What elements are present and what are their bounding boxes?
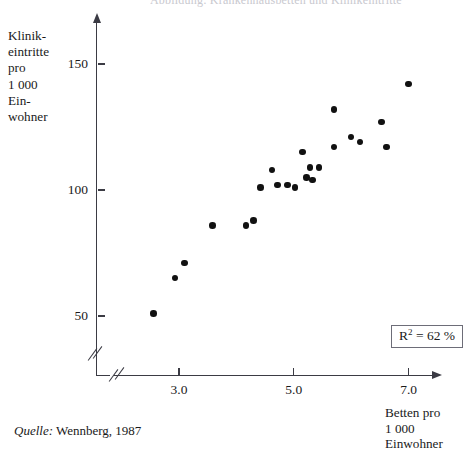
- data-point: [209, 222, 216, 229]
- data-point: [181, 260, 188, 267]
- data-point: [274, 182, 281, 189]
- r-squared-exponent: 2: [408, 327, 413, 337]
- data-point: [378, 119, 385, 126]
- data-point: [348, 134, 355, 141]
- data-point: [257, 184, 264, 191]
- data-point: [405, 81, 412, 88]
- data-point: [331, 106, 338, 113]
- r-squared-value: = 62 %: [416, 328, 455, 343]
- source-prefix: Quelle:: [14, 423, 53, 438]
- data-point: [309, 177, 316, 184]
- data-point: [299, 149, 306, 156]
- data-point: [284, 182, 291, 189]
- data-point: [331, 144, 338, 151]
- data-point: [250, 217, 257, 224]
- data-point: [172, 275, 179, 282]
- data-point: [383, 144, 390, 151]
- source-note: Quelle: Wennberg, 1987: [14, 424, 141, 438]
- data-point: [357, 139, 364, 146]
- data-point: [243, 222, 250, 229]
- data-point: [150, 310, 157, 317]
- r-squared-label: R: [399, 328, 408, 343]
- data-point: [307, 164, 314, 171]
- data-point: [316, 164, 323, 171]
- r-squared-annotation: R2 = 62 %: [391, 325, 463, 348]
- data-point: [269, 167, 276, 174]
- data-point: [292, 184, 299, 191]
- source-text: Wennberg, 1987: [56, 423, 141, 438]
